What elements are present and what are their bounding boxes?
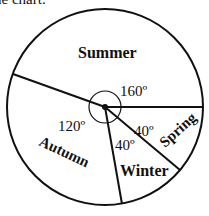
label-summer: Summer — [78, 44, 137, 61]
angle-label-winter: 40º — [115, 137, 135, 153]
angle-label-autumn: 120º — [58, 118, 86, 134]
pie-chart: Summer 160º 120º Autumn 40º 40º Winter S… — [0, 0, 209, 216]
label-winter: Winter — [120, 162, 169, 179]
angle-label-spring: 40º — [134, 123, 154, 139]
center-dot — [102, 104, 108, 110]
angle-label-summer: 160º — [120, 83, 148, 99]
